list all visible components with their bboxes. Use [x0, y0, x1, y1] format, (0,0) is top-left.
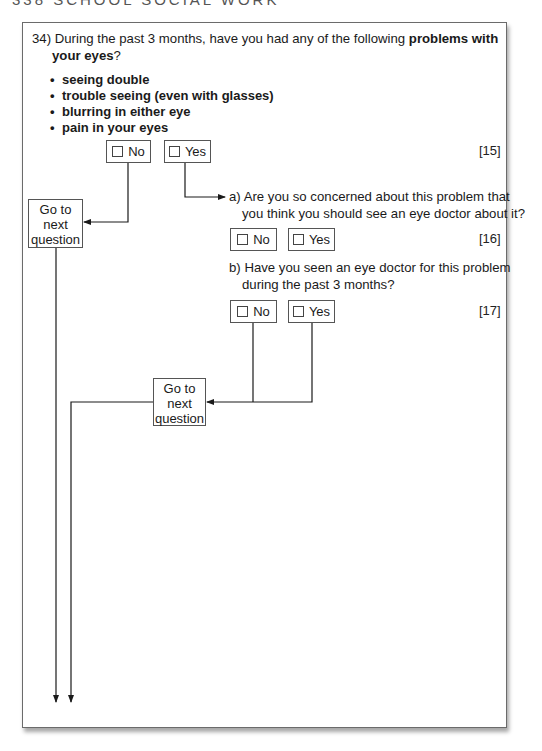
goto-line: next: [29, 217, 82, 232]
option-label: No: [253, 232, 270, 247]
checkbox-icon[interactable]: [237, 234, 248, 245]
option-label: Yes: [309, 232, 330, 247]
q34b-no-option[interactable]: No: [230, 300, 277, 323]
symptom-item: trouble seeing (even with glasses): [50, 88, 274, 104]
sub-question-a: a) Are you so concerned about this probl…: [229, 188, 525, 222]
checkbox-icon[interactable]: [293, 306, 304, 317]
question-text: 34) During the past 3 months, have you h…: [32, 30, 498, 47]
question-text-line2-end: ?: [114, 48, 121, 63]
option-label: No: [253, 304, 270, 319]
goto-line: Go to: [29, 202, 82, 217]
option-label: Yes: [309, 304, 330, 319]
option-label: Yes: [185, 144, 206, 159]
sub-b-line2: during the past 3 months?: [229, 276, 510, 293]
goto-line: Go to: [154, 381, 205, 396]
q34a-yes-option[interactable]: Yes: [288, 228, 335, 251]
sub-a-line2: you think you should see an eye doctor a…: [229, 205, 525, 222]
symptom-item: seeing double: [50, 72, 274, 88]
sub-question-b: b) Have you seen an eye doctor for this …: [229, 259, 510, 293]
q34a-no-option[interactable]: No: [230, 228, 277, 251]
question-text-line2: your eyes?: [52, 47, 121, 64]
question-text-bold: problems with: [409, 31, 498, 46]
checkbox-icon[interactable]: [169, 146, 180, 157]
checkbox-icon[interactable]: [237, 306, 248, 317]
ref-code-16: [16]: [479, 231, 501, 246]
goto-next-question-box: Go to next question: [28, 199, 83, 248]
goto-line: question: [29, 232, 82, 247]
goto-line: next: [154, 396, 205, 411]
symptom-item: blurring in either eye: [50, 104, 274, 120]
sub-a-line1: a) Are you so concerned about this probl…: [229, 188, 525, 205]
ref-code-15: [15]: [479, 143, 501, 158]
q34-no-option[interactable]: No: [106, 140, 151, 163]
question-text-part1: During the past 3 months, have you had a…: [55, 31, 409, 46]
symptom-item: pain in your eyes: [50, 120, 274, 136]
question-text-line2-bold: your eyes: [52, 48, 114, 63]
option-label: No: [128, 144, 145, 159]
question-number: 34): [32, 31, 51, 46]
symptom-list: seeing double trouble seeing (even with …: [50, 72, 274, 136]
checkbox-icon[interactable]: [112, 146, 123, 157]
sub-b-line1: b) Have you seen an eye doctor for this …: [229, 259, 510, 276]
checkbox-icon[interactable]: [293, 234, 304, 245]
goto-next-question-box: Go to next question: [153, 378, 206, 426]
goto-line: question: [154, 411, 205, 426]
q34-yes-option[interactable]: Yes: [164, 140, 211, 163]
ref-code-17: [17]: [479, 303, 501, 318]
q34b-yes-option[interactable]: Yes: [288, 300, 335, 323]
